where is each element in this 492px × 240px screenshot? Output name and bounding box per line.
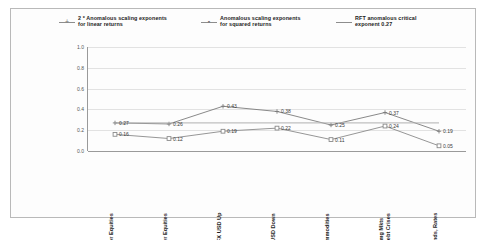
x-tick-label: Emg Mkts Debt Crises xyxy=(378,213,391,233)
gridline xyxy=(88,151,466,152)
data-label: 0.26 xyxy=(173,121,183,127)
y-tick-label: 0.0 xyxy=(77,148,84,154)
y-tick-label: 0.2 xyxy=(77,127,84,133)
data-label: 0.38 xyxy=(281,108,291,114)
data-label: 0.19 xyxy=(227,128,237,134)
data-label: 0.25 xyxy=(335,122,345,128)
y-tick-label: 0.4 xyxy=(77,106,84,112)
square-marker-icon: ▪ xyxy=(201,18,217,27)
line-marker-icon xyxy=(336,18,352,27)
x-tick-label: FX USD Up xyxy=(216,213,223,233)
data-point-marker xyxy=(221,104,225,108)
legend-item-squared-returns: ▪ Anomalous scaling exponents for square… xyxy=(201,15,301,28)
y-tick-label: 1.0 xyxy=(77,44,84,50)
data-point-marker xyxy=(383,110,387,114)
data-point-marker xyxy=(275,109,279,113)
data-label: 0.11 xyxy=(335,137,345,143)
data-label: 0.12 xyxy=(173,136,183,142)
plot-area: 1.00.80.60.40.20.0 0.270.260.430.380.250… xyxy=(87,47,465,151)
y-tick-label: 0.6 xyxy=(77,86,84,92)
x-tick-label: Major Equities xyxy=(108,213,115,233)
legend-label: RFT anomalous critical exponent 0.27 xyxy=(355,15,417,28)
legend-label: 2 * Anomalous scaling exponents for line… xyxy=(78,15,167,28)
chart-frame: + 2 * Anomalous scaling exponents for li… xyxy=(10,8,476,218)
data-label: 0.19 xyxy=(443,128,453,134)
data-point-marker xyxy=(437,144,441,148)
chart-legend: + 2 * Anomalous scaling exponents for li… xyxy=(11,15,477,41)
data-point-marker xyxy=(275,126,279,130)
data-point-marker xyxy=(221,129,225,133)
data-label: 0.24 xyxy=(389,123,399,129)
data-point-marker xyxy=(437,129,441,133)
data-label: 0.27 xyxy=(119,120,129,126)
y-tick-label: 0.8 xyxy=(77,65,84,71)
data-label: 0.43 xyxy=(227,103,237,109)
legend-item-linear-returns: + 2 * Anomalous scaling exponents for li… xyxy=(59,15,167,28)
x-axis-labels: Major EquitiesOther EquitiesFX USD UpFX … xyxy=(87,155,465,213)
data-point-marker xyxy=(113,132,117,136)
cross-marker-icon: + xyxy=(59,18,75,27)
data-point-marker xyxy=(329,138,333,142)
data-point-marker xyxy=(167,137,171,141)
legend-label: Anomalous scaling exponents for squared … xyxy=(220,15,301,28)
data-label: 0.16 xyxy=(119,131,129,137)
legend-item-rft-exponent: RFT anomalous critical exponent 0.27 xyxy=(336,15,417,28)
series-lines xyxy=(88,47,466,151)
data-point-marker xyxy=(329,123,333,127)
data-label: 0.37 xyxy=(389,110,399,116)
x-tick-label: Bonds, Rates xyxy=(432,213,439,233)
x-tick-label: Commodities xyxy=(324,213,331,233)
data-point-marker xyxy=(383,124,387,128)
data-label: 0.22 xyxy=(281,125,291,131)
x-tick-label: FX USD Down xyxy=(270,213,277,233)
data-label: 0.05 xyxy=(443,143,453,149)
x-tick-label: Other Equities xyxy=(162,213,169,233)
